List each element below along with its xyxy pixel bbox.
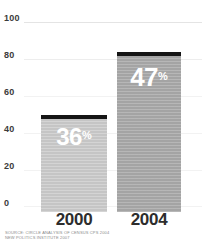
y-axis-tick-0: 0 <box>4 199 30 208</box>
bar-2004-cap <box>117 52 181 56</box>
y-axis-tick-100: 100 <box>4 14 30 23</box>
plot-area: 100 80 60 40 20 0 36% 47% <box>0 0 206 212</box>
bar-chart: 100 80 60 40 20 0 36% 47% 2000 2004 SOUR… <box>0 0 206 247</box>
x-axis-label-2000: 2000 <box>38 211 110 229</box>
y-axis-tick-20: 20 <box>4 162 30 171</box>
bar-2004-value-number: 47 <box>130 62 158 92</box>
bar-2004-percent-sign: % <box>158 70 168 82</box>
y-axis-tick-80: 80 <box>4 51 30 60</box>
source-note-line-2: NEW POLITICS INSTITUTE 2007 <box>5 235 165 240</box>
bar-2000-cap <box>41 115 107 119</box>
y-axis-tick-60: 60 <box>4 88 30 97</box>
source-note: SOURCE: CIRCLE ANALYSIS OF CENSUS CPS 20… <box>5 230 165 240</box>
bar-2000-value-number: 36 <box>56 123 82 150</box>
x-axis-labels: 2000 2004 <box>0 211 206 231</box>
bar-2004[interactable]: 47% <box>117 52 181 212</box>
bar-2000-percent-sign: % <box>82 129 92 141</box>
y-axis-tick-40: 40 <box>4 125 30 134</box>
bar-2000-value-label: 36% <box>41 125 107 149</box>
bar-2004-value-label: 47% <box>117 64 181 90</box>
gridline-100 <box>24 22 202 23</box>
x-axis-label-2004: 2004 <box>113 211 185 229</box>
bar-2000[interactable]: 36% <box>41 115 107 212</box>
